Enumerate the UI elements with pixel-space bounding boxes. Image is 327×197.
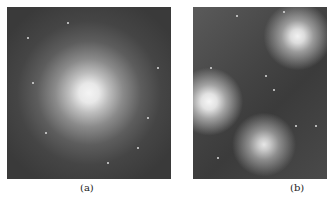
star [32, 82, 34, 84]
star [283, 11, 285, 13]
star [137, 147, 139, 149]
panel-a-caption: (a) [80, 182, 94, 193]
panel-b-caption: (b) [290, 182, 304, 193]
panel-b-image-nebula-stars [193, 7, 327, 179]
star [27, 37, 29, 39]
star [273, 89, 275, 91]
panel-a-image-globular-cluster [7, 7, 171, 179]
star [315, 125, 317, 127]
star [107, 162, 109, 164]
star [295, 125, 297, 127]
star [147, 117, 149, 119]
star [217, 157, 219, 159]
star [265, 75, 267, 77]
star [236, 15, 238, 17]
star [45, 132, 47, 134]
star [210, 67, 212, 69]
star [157, 67, 159, 69]
star [67, 22, 69, 24]
